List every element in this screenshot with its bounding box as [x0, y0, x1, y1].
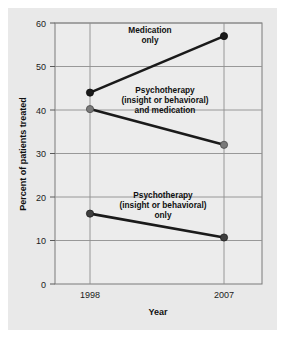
data-point-psychotherapy-only-1998 — [86, 210, 93, 217]
data-point-psychotherapy-only-2007 — [220, 234, 227, 241]
data-point-psychotherapy-and-medication-1998 — [86, 106, 93, 113]
y-tick-label-30: 30 — [36, 149, 46, 159]
chart-figure: 60 50 40 30 20 10 0 Percent of patients … — [0, 0, 284, 342]
y-tick-label-40: 40 — [36, 106, 46, 116]
data-point-medication-only-1998 — [86, 89, 93, 96]
data-point-psychotherapy-and-medication-2007 — [220, 141, 227, 148]
y-tick-label-10: 10 — [36, 236, 46, 246]
y-tick-label-50: 50 — [36, 62, 46, 72]
annotation-psychotherapy-and-medication-line-3: and medication — [135, 105, 196, 115]
y-tick-label-0: 0 — [41, 280, 46, 290]
y-tick-label-60: 60 — [36, 19, 46, 29]
x-tick-label-2007: 2007 — [214, 290, 234, 300]
annotation-psychotherapy-and-medication-line-2: (insight or behavioral) — [121, 95, 208, 105]
annotation-psychotherapy-only-line-1: Psychotherapy — [133, 190, 193, 200]
line-chart: 60 50 40 30 20 10 0 Percent of patients … — [0, 0, 284, 342]
data-point-medication-only-2007 — [220, 33, 227, 40]
x-axis-title: Year — [148, 307, 168, 317]
annotation-psychotherapy-only-line-3: only — [154, 210, 171, 220]
y-axis-ticks — [50, 23, 55, 284]
annotation-psychotherapy-only-line-2: (insight or behavioral) — [119, 200, 206, 210]
annotation-medication-only-line-2: only — [141, 35, 158, 45]
x-tick-label-1998: 1998 — [80, 290, 100, 300]
annotation-medication-only-line-1: Medication — [128, 25, 171, 35]
y-tick-label-20: 20 — [36, 193, 46, 203]
y-axis-title: Percent of patients treated — [18, 97, 28, 211]
annotation-psychotherapy-and-medication-line-1: Psychotherapy — [135, 85, 195, 95]
